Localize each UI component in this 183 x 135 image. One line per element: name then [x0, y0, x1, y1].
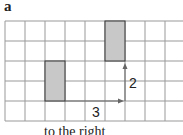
translated-shape — [105, 21, 125, 61]
horizontal-shift-label: 3 — [92, 104, 100, 120]
original-shape — [45, 61, 65, 101]
caption-text: to the right — [44, 124, 105, 135]
vertical-shift-label: 2 — [129, 75, 137, 91]
